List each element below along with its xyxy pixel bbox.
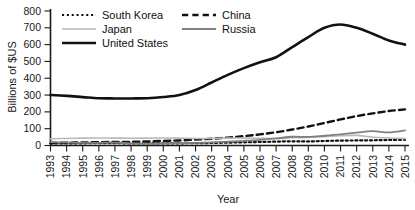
x-tick-label: 2009 xyxy=(302,155,314,179)
x-tick-label: 2004 xyxy=(222,155,234,179)
x-tick-label: 1998 xyxy=(125,155,137,179)
y-axis-ticks xyxy=(45,11,51,146)
y-axis-tick-labels: 0100200300400500600700800 xyxy=(23,5,41,152)
x-tick-label: 2008 xyxy=(286,155,298,179)
x-tick-label: 1997 xyxy=(109,155,121,179)
x-tick-label: 2006 xyxy=(254,155,266,179)
y-tick-label: 300 xyxy=(23,89,41,101)
series-line xyxy=(51,24,406,98)
x-tick-label: 2011 xyxy=(334,155,346,178)
x-tick-label: 1994 xyxy=(60,155,72,179)
x-tick-label: 1999 xyxy=(141,155,153,179)
x-axis-tick-labels: 1993199419951996199719981999200020012002… xyxy=(44,155,411,179)
y-tick-label: 100 xyxy=(23,122,41,134)
y-tick-label: 500 xyxy=(23,55,41,67)
x-tick-label: 2013 xyxy=(367,155,379,179)
x-tick-label: 2012 xyxy=(350,155,362,179)
legend-label-russia: Russia xyxy=(222,23,257,35)
x-tick-label: 1993 xyxy=(44,155,56,179)
legend-item-japan: Japan xyxy=(62,23,132,35)
x-tick-label: 1996 xyxy=(93,155,105,179)
y-tick-label: 400 xyxy=(23,72,41,84)
legend-item-russia: Russia xyxy=(182,23,257,35)
y-tick-label: 700 xyxy=(23,21,41,33)
x-tick-label: 2002 xyxy=(189,155,201,179)
x-axis-ticks xyxy=(51,146,406,152)
y-tick-label: 200 xyxy=(23,105,41,117)
line-chart: Billions of $US Year 0100200300400500600… xyxy=(0,0,415,210)
legend-item-south-korea: South Korea xyxy=(62,9,164,21)
x-tick-label: 1995 xyxy=(77,155,89,179)
legend-item-china: China xyxy=(182,9,252,21)
y-axis-title: Billions of $US xyxy=(6,41,18,113)
x-tick-label: 2001 xyxy=(173,155,185,179)
legend-label-south-korea: South Korea xyxy=(102,9,164,21)
legend-item-united-states: United States xyxy=(62,37,169,49)
x-tick-label: 2000 xyxy=(157,155,169,179)
x-tick-label: 2014 xyxy=(383,155,395,179)
legend-label-united-states: United States xyxy=(102,37,169,49)
x-tick-label: 2005 xyxy=(238,155,250,179)
y-tick-label: 0 xyxy=(35,139,41,151)
y-tick-label: 600 xyxy=(23,38,41,50)
legend-label-japan: Japan xyxy=(102,23,132,35)
y-tick-label: 800 xyxy=(23,5,41,17)
chart-canvas: Billions of $US Year 0100200300400500600… xyxy=(0,0,415,210)
x-tick-label: 2015 xyxy=(399,155,411,179)
x-tick-label: 2007 xyxy=(270,155,282,179)
legend-label-china: China xyxy=(222,9,252,21)
x-tick-label: 2010 xyxy=(318,155,330,179)
x-tick-label: 2003 xyxy=(205,155,217,179)
x-axis-title: Year xyxy=(217,193,240,205)
chart-legend: South KoreaChinaJapanRussiaUnited States xyxy=(62,9,257,49)
